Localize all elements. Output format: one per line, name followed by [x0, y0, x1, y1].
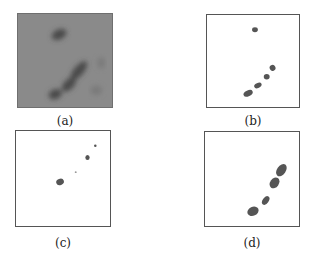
panel-a-image: [17, 13, 113, 108]
panel-c-image: [15, 130, 111, 227]
panel-d-image: [204, 131, 300, 227]
caption-b: (b): [223, 114, 283, 128]
caption-d: (d): [222, 236, 282, 250]
segmentation-blobs: [207, 15, 299, 107]
caption-a: (a): [35, 114, 95, 128]
segmentation-blobs: [16, 131, 110, 226]
panel-b-image: [206, 14, 300, 108]
grayscale-blobs: [18, 14, 112, 107]
caption-c: (c): [33, 236, 93, 250]
segmentation-blobs: [205, 132, 299, 226]
